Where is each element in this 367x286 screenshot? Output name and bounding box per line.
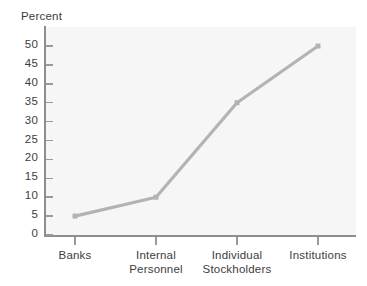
y-axis-tick-label: 0 [8,227,38,239]
y-axis-tick [46,45,53,47]
y-axis-tick [46,64,53,66]
y-axis-tick [46,215,53,217]
x-axis-category-label: Institutions [253,248,367,262]
x-axis-category-label-line: Stockholders [172,262,302,276]
y-axis-tick-label: 10 [8,189,38,201]
line-chart-figure: Percent 05101520253035404550 BanksIntern… [0,0,367,286]
y-axis-tick-label: 20 [8,151,38,163]
y-axis-tick [46,83,53,85]
y-axis-tick [46,140,53,142]
y-axis-tick-label: 5 [8,208,38,220]
y-axis-tick [46,178,53,180]
y-axis-tick-label: 40 [8,76,38,88]
x-axis-tick [317,237,319,245]
y-axis-tick-label: 45 [8,57,38,69]
y-axis-tick-label: 25 [8,133,38,145]
y-axis-tick [46,234,53,236]
y-axis-tick-label: 35 [8,95,38,107]
y-axis-line [44,26,46,237]
plot-area [45,27,356,235]
x-axis-tick [74,237,76,245]
y-axis-tick-label: 15 [8,170,38,182]
y-axis-tick [46,121,53,123]
y-axis-title: Percent [21,10,62,22]
y-axis-tick-label: 30 [8,114,38,126]
y-axis-tick [46,102,53,104]
y-axis-tick-label: 50 [8,38,38,50]
x-axis-category-label-line: Institutions [253,248,367,262]
x-axis-tick [236,237,238,245]
x-axis-tick [155,237,157,245]
y-axis-tick [46,159,53,161]
y-axis-tick [46,196,53,198]
x-axis-line [44,235,356,237]
